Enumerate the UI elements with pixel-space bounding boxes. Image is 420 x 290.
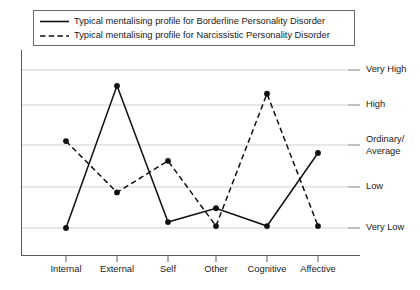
line-chart: Typical mentalising profile for Borderli… xyxy=(0,0,420,290)
x-axis-label-cognitive: Cognitive xyxy=(248,264,287,274)
data-point-narcissistic-cognitive xyxy=(264,91,270,97)
y-axis-label-very-high: Very High xyxy=(366,64,406,74)
legend-label-borderline: Typical mentalising profile for Borderli… xyxy=(74,16,325,26)
data-point-narcissistic-affective xyxy=(315,223,321,229)
x-axis-label-self: Self xyxy=(160,264,176,274)
x-axis-label-other: Other xyxy=(204,264,227,274)
y-axis-label-average: Average xyxy=(366,146,400,156)
y-axis-label-ordinary: Ordinary/ xyxy=(366,134,405,144)
x-axis-label-external: External xyxy=(100,264,134,274)
x-axis-label-internal: Internal xyxy=(50,264,81,274)
data-point-borderline-other xyxy=(213,205,219,211)
chart-legend: Typical mentalising profile for Borderli… xyxy=(34,11,355,46)
data-point-narcissistic-internal xyxy=(63,138,69,144)
data-point-borderline-internal xyxy=(63,225,69,231)
data-point-borderline-self xyxy=(165,219,171,225)
data-point-borderline-cognitive xyxy=(264,223,270,229)
y-axis-label-low: Low xyxy=(366,181,383,191)
legend-entry-borderline: Typical mentalising profile for Borderli… xyxy=(40,16,325,26)
legend-label-narcissistic: Typical mentalising profile for Narcissi… xyxy=(74,30,330,40)
chart-figure: Typical mentalising profile for Borderli… xyxy=(0,0,420,290)
data-point-borderline-affective xyxy=(315,150,321,156)
data-point-narcissistic-other xyxy=(213,223,219,229)
data-point-borderline-external xyxy=(114,83,120,89)
y-axis-label-very-low: Very Low xyxy=(366,222,405,232)
data-point-narcissistic-self xyxy=(165,158,171,164)
x-axis-label-affective: Affective xyxy=(300,264,336,274)
y-axis-label-high: High xyxy=(366,99,385,109)
data-point-narcissistic-external xyxy=(114,190,120,196)
legend-entry-narcissistic: Typical mentalising profile for Narcissi… xyxy=(40,30,330,40)
